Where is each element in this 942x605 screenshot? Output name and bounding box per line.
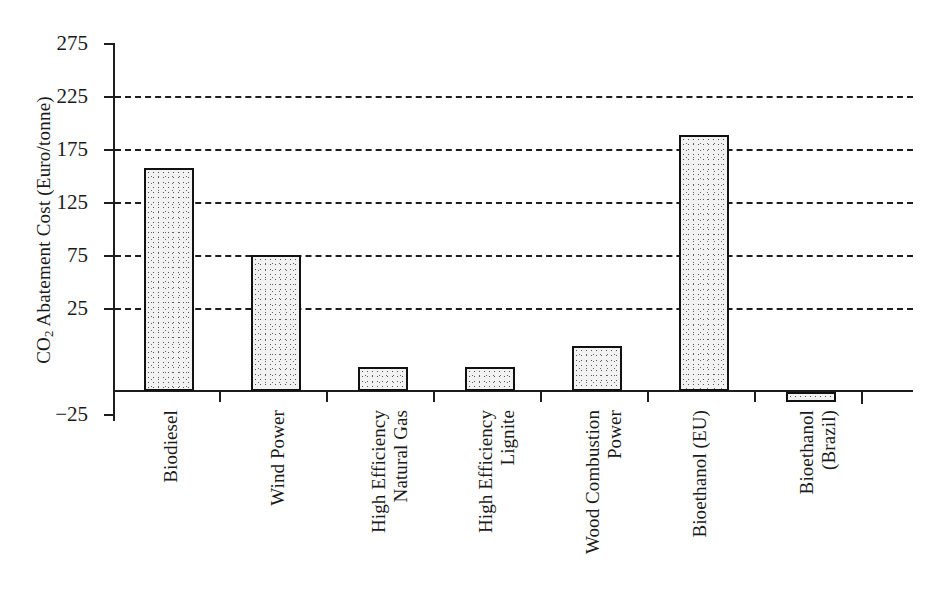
x-tick-mark-3 [433, 392, 435, 402]
x-label-line-1: High Efficiency [475, 410, 496, 533]
bar-high-eff-lignite [465, 367, 515, 391]
x-tick-mark-1 [219, 392, 221, 402]
x-label-line-2: Natural Gas [390, 410, 412, 600]
y-tick-mark-neg25 [104, 414, 115, 416]
x-tick-mark-6 [754, 392, 756, 402]
x-label-line-1: Biodiesel [160, 410, 181, 483]
x-axis-end-cap [861, 392, 863, 404]
x-label-wind-power: Wind Power [267, 410, 289, 600]
y-tick-mark-25 [104, 308, 115, 310]
x-label-wood-combustion-power: Wood Combustion Power [582, 410, 626, 600]
bar-chart: CO2 Abatement Cost (Euro/tonne) 275 225 … [0, 0, 942, 605]
x-label-line-2: Lignite [497, 410, 519, 600]
y-tick-label-neg25: −25 [24, 404, 88, 425]
bar-wood-combustion-power [572, 346, 622, 391]
x-tick-mark-5 [647, 392, 649, 402]
x-label-bioethanol-brazil: Bioethanol (Brazil) [796, 410, 840, 600]
y-axis-tick-labels: 275 225 175 125 75 25 −25 [10, 0, 88, 605]
y-tick-label-25: 25 [24, 298, 88, 319]
y-tick-mark-175 [104, 149, 115, 151]
x-label-high-efficiency-lignite: High Efficiency Lignite [475, 410, 519, 600]
bar-biodiesel [144, 168, 194, 391]
gridline-175 [115, 149, 913, 151]
y-tick-mark-225 [104, 96, 115, 98]
y-tick-label-175: 175 [24, 139, 88, 160]
y-axis-line [113, 44, 115, 421]
x-label-line-2: (Brazil) [818, 410, 840, 600]
x-label-line-1: Wind Power [267, 410, 288, 506]
y-tick-label-275: 275 [24, 33, 88, 54]
bar-wind-power [251, 255, 301, 391]
y-tick-mark-75 [104, 255, 115, 257]
gridline-75 [115, 255, 913, 257]
y-tick-label-125: 125 [24, 192, 88, 213]
bar-bioethanol-brazil [786, 392, 836, 402]
x-label-line-2: Power [604, 410, 626, 600]
x-label-line-1: Bioethanol (EU) [689, 410, 710, 538]
x-label-line-1: Bioethanol [796, 410, 817, 494]
y-tick-mark-125 [104, 202, 115, 204]
x-label-bioethanol-eu: Bioethanol (EU) [689, 410, 711, 600]
x-label-high-efficiency-natural-gas: High Efficiency Natural Gas [368, 410, 412, 600]
x-label-biodiesel: Biodiesel [160, 410, 182, 600]
x-label-line-1: Wood Combustion [582, 410, 603, 554]
x-tick-mark-4 [540, 392, 542, 402]
bar-bioethanol-eu [679, 135, 729, 391]
gridline-25 [115, 308, 913, 310]
bar-high-eff-natural-gas [358, 367, 408, 391]
y-tick-label-225: 225 [24, 86, 88, 107]
gridline-225 [115, 96, 913, 98]
y-tick-mark-275 [104, 43, 115, 45]
y-tick-label-75: 75 [24, 245, 88, 266]
x-tick-mark-2 [326, 392, 328, 402]
x-label-line-1: High Efficiency [368, 410, 389, 533]
gridline-125 [115, 202, 913, 204]
